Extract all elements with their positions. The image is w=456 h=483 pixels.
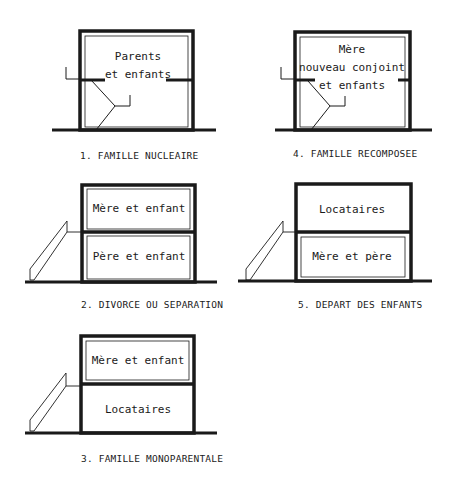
diagram-1-famille-nucleaire: Parents et enfants 1. FAMILLE NUCLEAIRE xyxy=(52,31,216,161)
interior-stair-icon xyxy=(66,67,80,79)
room-label: Mère et enfant xyxy=(93,202,186,215)
diagram-caption: 5. DEPART DES ENFANTS xyxy=(298,299,422,310)
room-label: nouveau conjoint xyxy=(299,61,405,74)
room-label: et enfants xyxy=(319,79,385,92)
room-label: Père et enfant xyxy=(93,250,186,263)
diagram-caption: 1. FAMILLE NUCLEAIRE xyxy=(80,150,198,161)
diagram-2-divorce-separation: Mère et enfant Père et enfant 2. DIVORCE… xyxy=(25,185,223,310)
interior-stair-icon xyxy=(281,67,295,79)
diagram-5-depart-enfants: Locataires Mère et père 5. DEPART DES EN… xyxy=(238,184,432,310)
exterior-stair-icon xyxy=(30,221,82,280)
room-label: Parents xyxy=(115,50,161,63)
interior-stair-icon xyxy=(96,106,115,130)
interior-stair-icon xyxy=(311,106,330,130)
room-label: Locataires xyxy=(105,403,171,416)
room-label: Mère et père xyxy=(312,250,391,263)
diagram-caption: 2. DIVORCE OU SEPARATION xyxy=(81,299,223,310)
exterior-stair-icon xyxy=(30,373,81,431)
exterior-stair-icon xyxy=(246,221,296,280)
diagram-caption: 3. FAMILLE MONOPARENTALE xyxy=(81,453,223,464)
room-label: Locataires xyxy=(319,203,385,216)
diagram-caption: 4. FAMILLE RECOMPOSEE xyxy=(293,148,417,159)
room-label: et enfants xyxy=(105,68,171,81)
interior-stair-icon xyxy=(91,80,130,106)
room-label: Mère et enfant xyxy=(92,354,185,367)
diagram-3-famille-monoparentale: Mère et enfant Locataires 3. FAMILLE MON… xyxy=(25,336,223,464)
room-label: Mère xyxy=(339,43,366,56)
diagram-4-famille-recomposee: Mère nouveau conjoint et enfants 4. FAMI… xyxy=(275,32,432,159)
housing-evolution-diagram: Parents et enfants 1. FAMILLE NUCLEAIRE … xyxy=(0,0,456,483)
